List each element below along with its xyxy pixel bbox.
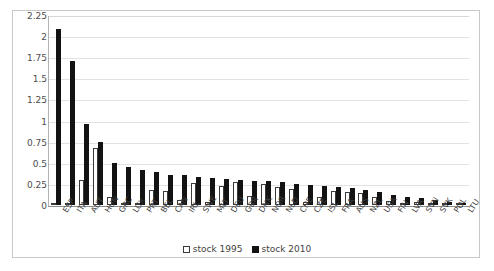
bar-stock-2010 bbox=[98, 142, 103, 205]
x-axis-tick-label: GBR bbox=[244, 210, 251, 214]
x-axis-tick-label: CAN bbox=[174, 210, 181, 214]
bar-group bbox=[233, 16, 247, 205]
bar-group bbox=[163, 16, 177, 205]
x-axis: ESPITAAUTHUNGRCLUXPRTBELCANIRLSWEMLTDEUG… bbox=[48, 208, 469, 242]
bar-group bbox=[261, 16, 275, 205]
x-axis-tick-label: AUT bbox=[90, 210, 97, 214]
bar-group bbox=[289, 16, 303, 205]
bar-group bbox=[121, 16, 135, 205]
bar-group bbox=[456, 16, 470, 205]
x-axis-tick-label: SVK bbox=[439, 210, 446, 214]
y-axis-tick-label: 1.25 bbox=[13, 96, 47, 105]
x-axis-tick-label: SVN bbox=[425, 210, 432, 214]
bar-group bbox=[191, 16, 205, 205]
x-axis-tick-label: HUN bbox=[104, 210, 111, 214]
bar-group bbox=[247, 16, 261, 205]
y-axis-tick-label: 2 bbox=[13, 33, 47, 42]
x-axis-tick-label: AUS bbox=[355, 210, 362, 214]
bar-group bbox=[177, 16, 191, 205]
bar-group bbox=[386, 16, 400, 205]
bar-group bbox=[107, 16, 121, 205]
chart-legend: stock 1995stock 2010 bbox=[13, 242, 481, 256]
bar-group bbox=[51, 16, 65, 205]
x-axis-tick-label: FRA bbox=[341, 210, 348, 214]
bar-group bbox=[93, 16, 107, 205]
x-axis-tick-label: ISL bbox=[327, 210, 334, 214]
x-axis-tick-label: DNK bbox=[258, 210, 265, 214]
x-axis-tick-label: NLD bbox=[285, 210, 292, 214]
bar-group bbox=[400, 16, 414, 205]
x-axis-tick-label: NZL bbox=[369, 210, 376, 214]
bar-group bbox=[428, 16, 442, 205]
bar-group bbox=[275, 16, 289, 205]
bars-layer bbox=[50, 16, 469, 205]
open-square-icon bbox=[183, 246, 190, 253]
x-axis-tick-label: BEL bbox=[160, 210, 167, 214]
x-axis-tick-label: PRT bbox=[146, 210, 153, 214]
y-axis-tick-label: 0.75 bbox=[13, 139, 47, 148]
y-axis: 00.250.50.7511.251.51.7522.25 bbox=[13, 11, 47, 207]
y-axis-tick-label: 1.75 bbox=[13, 54, 47, 63]
y-axis-tick-label: 0.5 bbox=[13, 160, 47, 169]
x-axis-tick-label: CHE bbox=[299, 210, 306, 214]
bar-group bbox=[205, 16, 219, 205]
x-axis-tick-label: NOR bbox=[271, 210, 278, 214]
x-axis-tick-label: LUX bbox=[132, 210, 139, 214]
y-axis-tick-label: 1 bbox=[13, 118, 47, 127]
chart-figure: 00.250.50.7511.251.51.7522.25 ESPITAAUTH… bbox=[12, 10, 480, 258]
legend-label: stock 2010 bbox=[262, 245, 312, 254]
x-axis-tick-label: LVA bbox=[411, 210, 418, 214]
legend-entry: stock 1995 bbox=[183, 245, 243, 254]
bar-group bbox=[79, 16, 93, 205]
bar-group bbox=[372, 16, 386, 205]
x-axis-tick-label: POL bbox=[453, 210, 460, 214]
filled-square-icon bbox=[252, 246, 259, 253]
y-axis-tick-label: 0.25 bbox=[13, 181, 47, 190]
x-axis-tick-label: FIN bbox=[397, 210, 404, 214]
x-axis-tick-label: DEU bbox=[230, 210, 237, 214]
bar-group bbox=[358, 16, 372, 205]
bar-group bbox=[317, 16, 331, 205]
x-axis-tick-label: LTU bbox=[467, 210, 474, 214]
y-axis-tick-label: 0 bbox=[13, 202, 47, 211]
x-axis-tick-label: IRL bbox=[188, 210, 195, 214]
bar-stock-2010 bbox=[84, 124, 89, 205]
x-axis-tick-label: USA bbox=[383, 210, 390, 214]
x-axis-tick-label: MLT bbox=[216, 210, 223, 214]
bar-stock-2010 bbox=[56, 29, 61, 205]
bar-group bbox=[149, 16, 163, 205]
x-axis-tick-label: ESP bbox=[62, 210, 69, 214]
legend-label: stock 1995 bbox=[193, 245, 243, 254]
x-axis-tick-label: GRC bbox=[118, 210, 125, 214]
x-axis-tick-label: SWE bbox=[202, 210, 209, 214]
bar-group bbox=[303, 16, 317, 205]
bar-group bbox=[331, 16, 345, 205]
bar-group bbox=[135, 16, 149, 205]
legend-entry: stock 2010 bbox=[252, 245, 312, 254]
y-axis-tick-label: 1.5 bbox=[13, 75, 47, 84]
bar-group bbox=[65, 16, 79, 205]
bar-group bbox=[219, 16, 233, 205]
bar-group bbox=[414, 16, 428, 205]
plot-area bbox=[48, 16, 469, 207]
x-axis-tick-label: CZE bbox=[313, 210, 320, 214]
bar-stock-2010 bbox=[70, 61, 75, 205]
x-axis-tick-label: ITA bbox=[76, 210, 83, 214]
y-axis-tick-label: 2.25 bbox=[13, 12, 47, 21]
bar-group bbox=[442, 16, 456, 205]
bar-group bbox=[345, 16, 359, 205]
